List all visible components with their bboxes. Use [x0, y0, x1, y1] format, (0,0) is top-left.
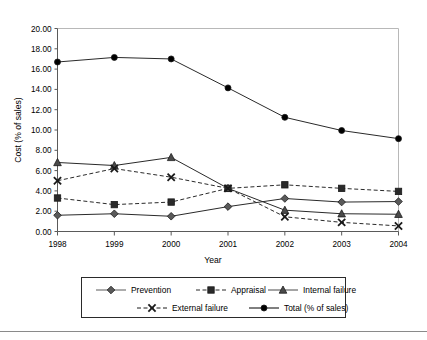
data-marker-cross: [338, 219, 345, 226]
data-marker-diamond: [338, 198, 346, 206]
chart-legend: PreventionAppraisalInternal failureExter…: [82, 278, 357, 318]
x-tick-label: 2003: [333, 240, 352, 249]
x-tick-label: 1999: [105, 240, 124, 249]
y-tick-label: 20.00: [31, 25, 52, 34]
data-marker-diamond: [54, 211, 62, 219]
y-tick-label: 2.00: [36, 207, 52, 216]
series-line: [58, 169, 399, 226]
y-tick-label: 6.00: [36, 167, 52, 176]
data-marker-circle: [261, 305, 267, 311]
x-tick-label: 2004: [389, 240, 408, 249]
data-marker-square: [208, 287, 214, 293]
y-axis: 0.002.004.006.008.0010.0012.0014.0016.00…: [31, 25, 58, 237]
x-tick-label: 2000: [162, 240, 181, 249]
data-marker-cross: [281, 213, 288, 220]
data-marker-circle: [282, 114, 288, 120]
data-marker-square: [338, 185, 344, 191]
data-marker-square: [282, 182, 288, 188]
y-tick-label: 14.00: [31, 85, 52, 94]
x-axis-title: Year: [204, 255, 222, 265]
data-marker-circle: [168, 56, 174, 62]
legend-label: External failure: [172, 303, 228, 313]
data-marker-circle: [111, 54, 117, 60]
data-marker-triangle: [281, 206, 289, 213]
data-marker-circle: [225, 85, 231, 91]
data-marker-triangle: [54, 158, 62, 165]
data-marker-diamond: [111, 210, 119, 218]
data-marker-diamond: [224, 203, 232, 211]
plot-frame: [58, 29, 399, 232]
x-tick-label: 2001: [219, 240, 238, 249]
chart-figure: 0.002.004.006.008.0010.0012.0014.0016.00…: [0, 0, 427, 340]
data-marker-diamond: [167, 212, 175, 220]
data-marker-circle: [396, 136, 402, 142]
data-marker-triangle: [167, 153, 175, 160]
y-tick-label: 0.00: [36, 228, 52, 237]
series-external-failure: [54, 165, 402, 230]
series-total-of-sales: [55, 54, 402, 141]
legend-label: Appraisal: [231, 285, 266, 295]
series-line: [58, 57, 399, 138]
y-tick-label: 8.00: [36, 146, 52, 155]
data-marker-diamond: [395, 198, 403, 206]
data-marker-square: [111, 201, 117, 207]
series-layer: [54, 54, 403, 229]
y-tick-label: 12.00: [31, 106, 52, 115]
y-axis-title: Cost (% of sales): [13, 97, 23, 163]
legend-label: Internal failure: [303, 285, 356, 295]
line-chart: 0.002.004.006.008.0010.0012.0014.0016.00…: [0, 0, 427, 340]
y-tick-label: 16.00: [31, 65, 52, 74]
data-marker-diamond: [281, 195, 289, 203]
x-tick-label: 1998: [48, 240, 67, 249]
series-prevention: [54, 195, 403, 220]
y-tick-label: 4.00: [36, 187, 52, 196]
data-marker-circle: [339, 128, 345, 134]
data-marker-circle: [55, 59, 61, 65]
x-tick-label: 2002: [276, 240, 295, 249]
y-tick-label: 10.00: [31, 126, 52, 135]
data-marker-square: [54, 195, 60, 201]
data-marker-square: [168, 199, 174, 205]
legend-label: Total (% of sales): [284, 303, 348, 313]
data-marker-square: [395, 188, 401, 194]
x-axis: 1998199920002001200220032004: [48, 232, 408, 249]
y-tick-label: 18.00: [31, 45, 52, 54]
legend-label: Prevention: [131, 285, 171, 295]
